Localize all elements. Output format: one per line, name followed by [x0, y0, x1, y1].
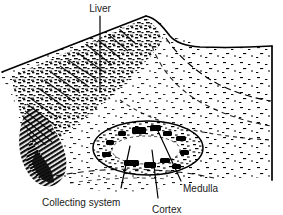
label-cortex: Cortex	[152, 204, 181, 215]
ultrasound-figure: Liver Collecting system Cortex Medulla	[0, 0, 283, 215]
label-medulla: Medulla	[183, 183, 218, 194]
ultrasound-drawing: Liver Collecting system Cortex Medulla	[0, 0, 283, 215]
label-liver: Liver	[89, 3, 111, 14]
label-collecting-system: Collecting system	[42, 197, 120, 208]
